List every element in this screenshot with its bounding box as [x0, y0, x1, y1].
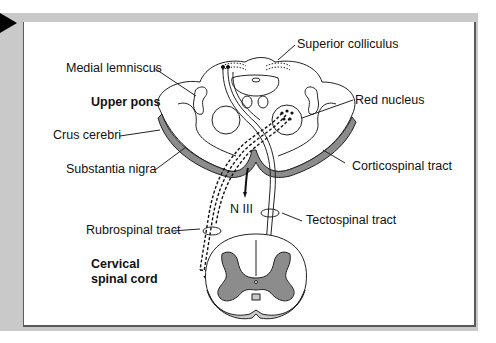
label-superior-colliculus: Superior colliculus: [297, 38, 398, 51]
label-substantia-nigra: Substantia nigra: [66, 163, 156, 176]
label-crus-cerebri: Crus cerebri: [53, 129, 121, 142]
label-medial-lemniscus: Medial lemniscus: [66, 62, 162, 75]
label-red-nucleus: Red nucleus: [355, 94, 425, 107]
label-rubrospinal-tract: Rubrospinal tract: [86, 224, 181, 237]
label-cervical: Cervical: [91, 258, 140, 271]
label-upper-pons: Upper pons: [91, 96, 160, 109]
label-n-iii: N III: [230, 203, 253, 216]
label-corticospinal-tract: Corticospinal tract: [352, 160, 452, 173]
spinal-cord-section: [205, 234, 306, 319]
label-tectospinal-tract: Tectospinal tract: [306, 214, 396, 227]
label-spinal-cord: spinal cord: [91, 273, 158, 286]
